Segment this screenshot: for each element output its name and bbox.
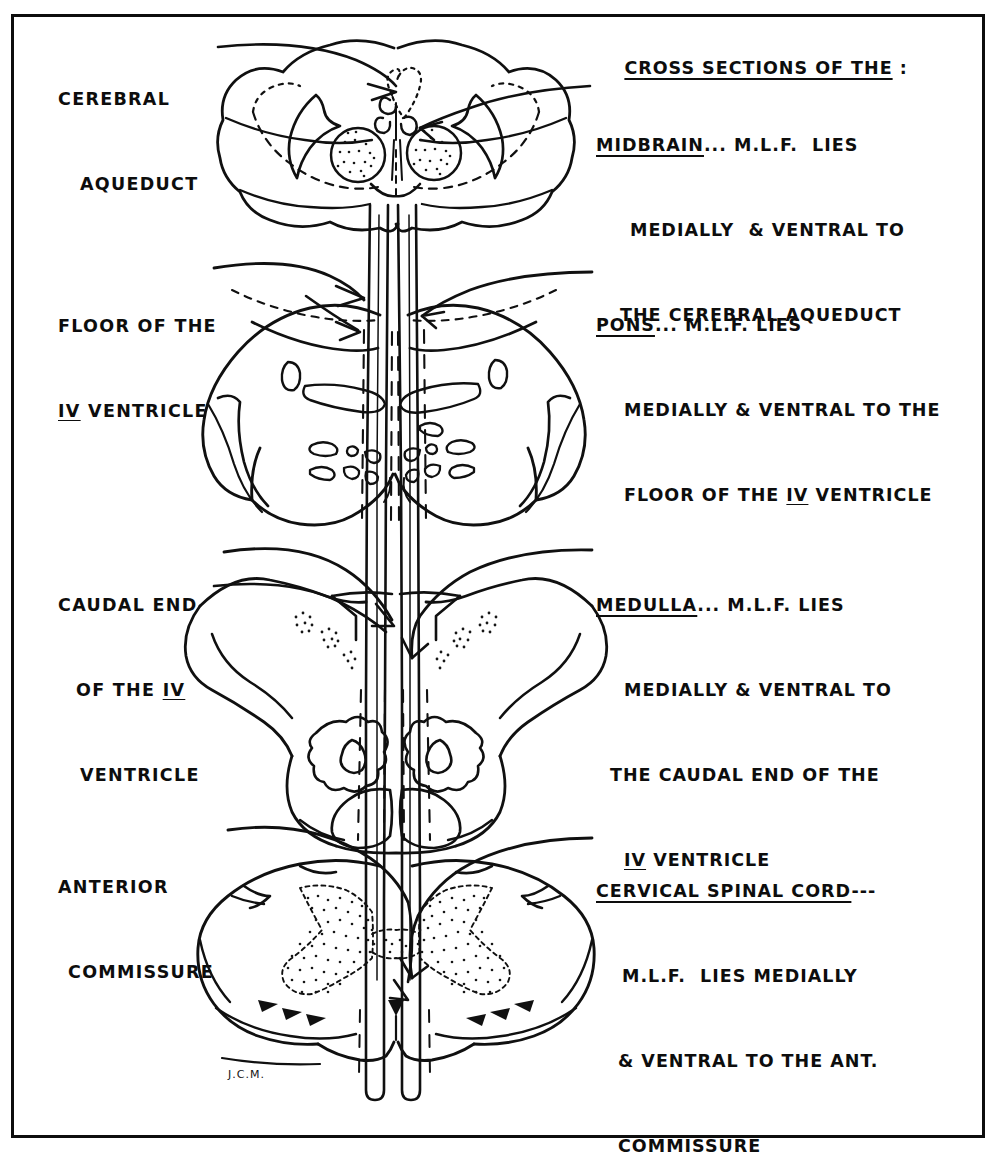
midbrain-section [218,41,575,232]
entry-title: MIDBRAIN [596,135,704,155]
pons-section [203,290,586,525]
entry-title: CERVICAL SPINAL CORD [596,881,851,901]
roman-numeral-iv: IV [786,485,808,505]
label-line: ANTERIOR [58,873,214,901]
entry-line: MEDIALLY & VENTRAL TO [624,676,892,704]
entry-title: PONS [596,315,655,335]
medulla-section [185,578,606,853]
entry-pons: PONS... M.L.F. LIES MEDIALLY & VENTRAL T… [596,254,940,566]
entry-cervical-spinal-cord: CERVICAL SPINAL CORD--- M.L.F. LIES MEDI… [596,820,878,1154]
label-line: CAUDAL END [58,591,200,619]
spinal-cord-section [198,860,594,1064]
label-line: AQUEDUCT [80,170,199,198]
label-caudal-end-iv-ventricle: CAUDAL END OF THE IV VENTRICLE [58,534,200,846]
label-line: FLOOR OF THE [58,312,217,340]
label-line-iv: IV VENTRICLE [58,397,217,425]
medulla-stippled-nuclei [295,612,498,670]
entry-line: MEDIALLY & VENTRAL TO THE [624,396,940,424]
entry-line-iv: FLOOR OF THE IV VENTRICLE [624,481,940,509]
entry-line: M.L.F. LIES [734,135,858,155]
label-line-of-the-iv: OF THE IV [76,676,200,704]
label-line: CEREBRAL [58,85,199,113]
entry-title: MEDULLA [596,595,697,615]
entry-dashes: --- [851,881,876,901]
label-line: COMMISSURE [68,958,214,986]
label-cerebral-aqueduct: CEREBRAL AQUEDUCT [58,28,199,255]
gray-matter-stipple [287,895,506,994]
entry-line: COMMISSURE [618,1132,878,1154]
roman-numeral-iv: IV [163,680,186,700]
entry-dashes: ... [655,315,678,335]
entry-line: M.L.F. LIES MEDIALLY [622,962,878,990]
entry-line: M.L.F. LIES [727,595,844,615]
label-floor-iv-ventricle: FLOOR OF THE IV VENTRICLE [58,255,217,482]
figure-canvas: CEREBRAL AQUEDUCT FLOOR OF THE IV VENTRI… [0,0,1000,1154]
entry-line: THE CAUDAL END OF THE [610,761,892,789]
entry-line: MEDIALLY & VENTRAL TO [630,216,905,244]
label-anterior-commissure: ANTERIOR COMMISSURE [58,816,214,1043]
entry-dashes: ... [704,135,727,155]
entry-line: & VENTRAL TO THE ANT. [618,1047,878,1075]
label-line: VENTRICLE [80,761,200,789]
artist-signature: J.C.M. [228,1068,265,1081]
entry-line: M.L.F. LIES [685,315,802,335]
entry-dashes: ... [697,595,720,615]
roman-numeral-iv: IV [58,401,81,421]
